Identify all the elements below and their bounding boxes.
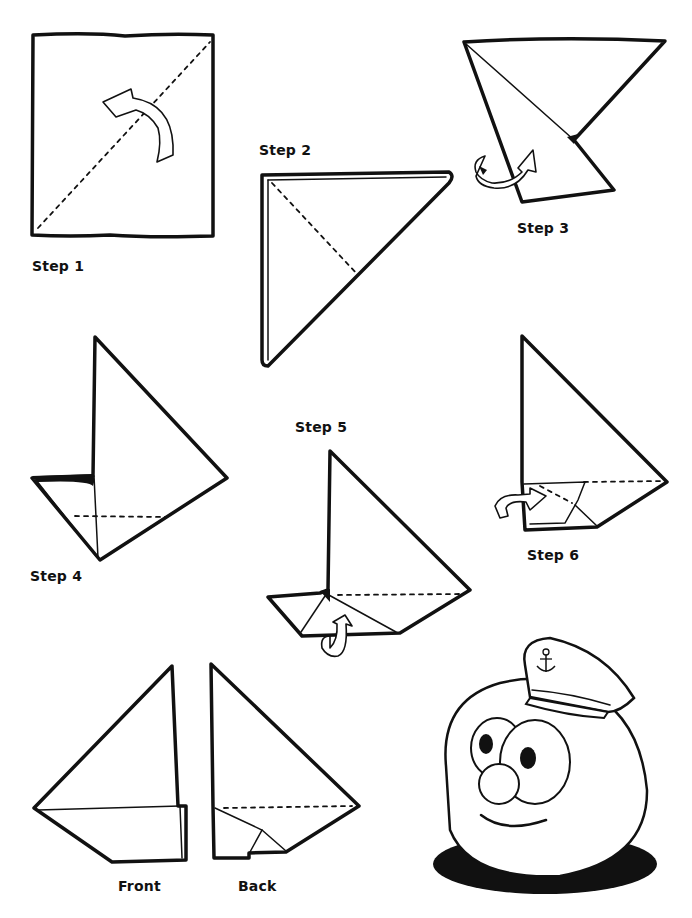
step-5-figure — [268, 451, 470, 656]
captain-character — [433, 638, 657, 894]
captain-hat — [524, 638, 634, 718]
instructions-illustration — [0, 0, 692, 918]
back-figure — [211, 664, 359, 858]
step-2-figure — [262, 172, 452, 366]
step-1-figure — [32, 34, 213, 237]
front-label: Front — [118, 878, 161, 894]
front-figure — [34, 666, 186, 862]
step-1-label: Step 1 — [32, 258, 84, 274]
step-3-figure — [464, 39, 665, 202]
step-6-label: Step 6 — [527, 547, 579, 563]
step-5-label: Step 5 — [295, 419, 347, 435]
step-2-label: Step 2 — [259, 142, 311, 158]
step-6-figure — [495, 336, 667, 530]
back-label: Back — [238, 878, 277, 894]
step-3-label: Step 3 — [517, 220, 569, 236]
step-4-label: Step 4 — [30, 568, 82, 584]
step-4-figure — [32, 337, 227, 560]
